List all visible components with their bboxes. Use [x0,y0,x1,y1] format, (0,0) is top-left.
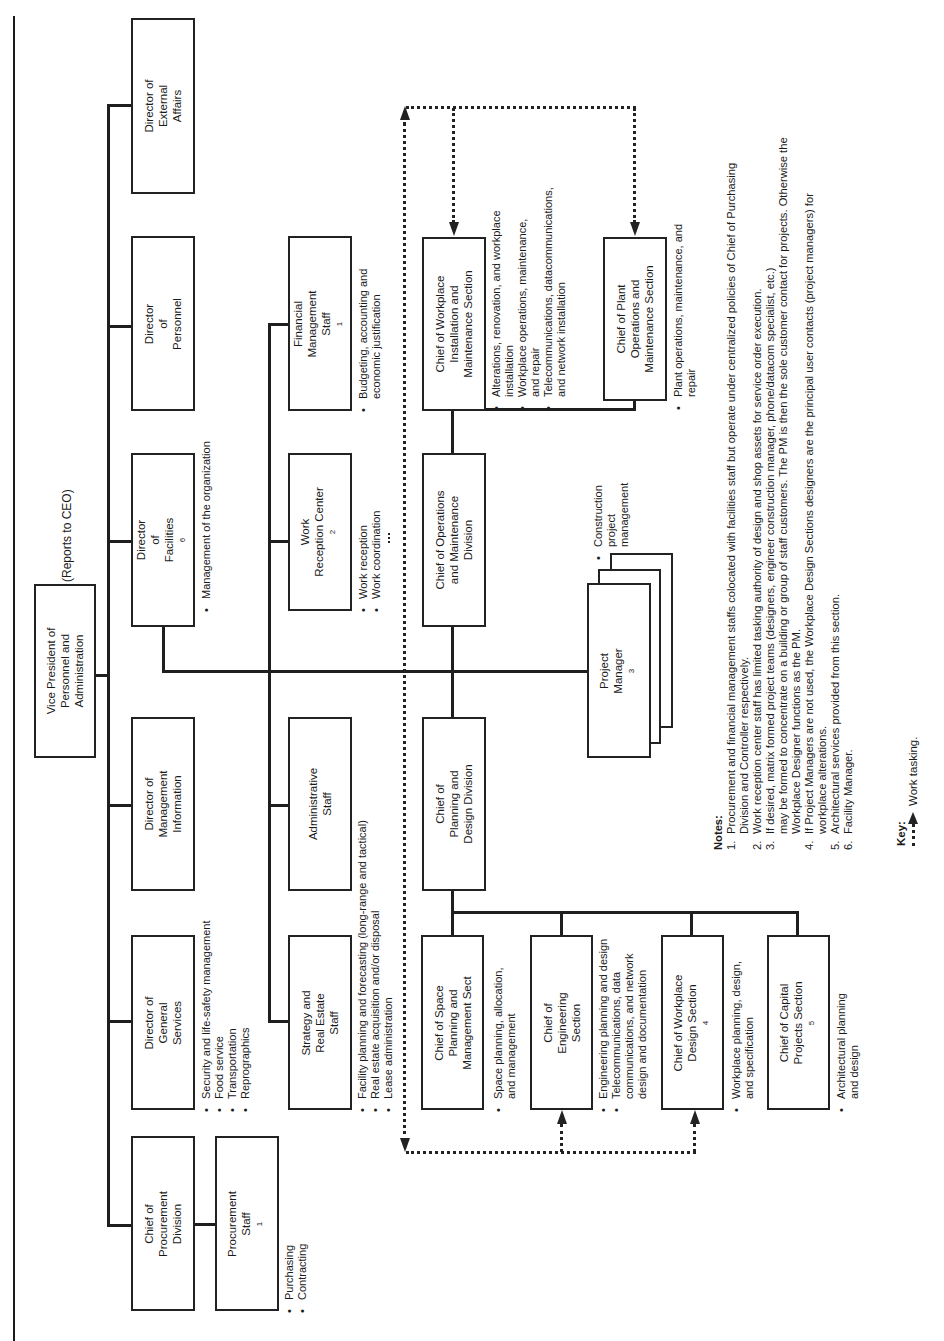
director-external-affairs-label: Director ofExternalAffairs [142,79,184,132]
notes-title: Notes: [712,137,725,850]
connector [268,1020,288,1023]
bullet-item: Food service [213,920,226,1112]
dotted-to-workplace-design [693,1124,696,1152]
work-reception-dotted-link [388,533,390,543]
bullet-item: Security and life-safety management [200,920,213,1112]
procurement-staff[interactable]: ProcurementStaff1 [215,1136,279,1311]
financial-duties: Budgeting, accounting andeconomic justif… [357,269,383,412]
connector [107,1020,131,1023]
project-manager[interactable]: ProjectManager 3 [587,583,651,758]
note-item: 4.If Project Managers are not used, the … [803,137,829,850]
key-label: Work tasking. [907,737,919,806]
vp-box[interactable]: Vice President ofPersonnel andAdministra… [34,584,96,758]
bullet-item: Work coordination [370,511,383,612]
plant-operations-duties: Plant operations, maintenance, andrepair [672,224,698,410]
arrowhead-icon [908,812,918,824]
work-reception-label: WorkReception Center2 [298,487,343,577]
bullet-item: Purchasing [283,1244,296,1313]
bullet-item: Architectural planningand design [835,993,861,1112]
director-gs-label: Director ofGeneralServices [142,996,184,1049]
director-mi-label: Director ofManagementInformation [142,770,184,837]
planning-division-label: Chief ofPlanning andDesign Division [433,764,475,843]
connector [107,104,131,107]
operations-division-label: Chief of Operationsand MaintenanceDivisi… [433,490,475,589]
top-dotted-line [406,106,636,109]
note-item: 2.Work reception center staff has limite… [751,137,764,850]
dotted-to-workplace-install [452,108,455,223]
capital-projects-duties: Architectural planningand design [835,993,861,1112]
chief-workplace-design-section[interactable]: Chief of WorkplaceDesign Section4 [661,935,724,1110]
financial-management-staff[interactable]: FinancialManagementStaff1 [288,236,352,411]
chief-operations-maintenance-division[interactable]: Chief of Operationsand MaintenanceDivisi… [422,453,486,627]
connector [268,540,288,543]
reports-to-label: (Reports to CEO) [60,489,74,582]
plant-ops-connector [633,400,636,410]
key-section: Key: Work tasking. [895,737,919,846]
chief-planning-design-division[interactable]: Chief ofPlanning andDesign Division [422,717,486,891]
director-external-affairs[interactable]: Director ofExternalAffairs [131,18,195,194]
project-manager-label: ProjectManager 3 [597,648,642,693]
dotted-arrow-icon [912,824,915,846]
notes-section: Notes: 1.Procurement and financial manag… [712,137,855,850]
bullet-item: Workplace planning, design,and specifica… [730,961,756,1112]
facilities-duties: Management of the organization [200,441,213,612]
staff-spine [268,323,271,1023]
procurement-connector [195,1223,215,1226]
key-entry: Work tasking. [907,737,919,846]
note-item: 3.If desired, matrix formed project team… [764,137,803,850]
work-reception-duties: Work reception Work coordination [357,511,383,612]
bullet-item: Real estate acquisition and/or disposal [369,820,382,1112]
bullet-item: Workplace operations, maintenance,and re… [516,187,542,410]
arrow-down-icon [449,222,459,236]
dotted-to-plant-ops [633,108,636,223]
connector [268,804,288,807]
workplace-design-duties: Workplace planning, design,and specifica… [730,961,756,1112]
dotted-to-engineering [560,1124,563,1152]
note-item: 6.Facility Manager. [842,137,855,850]
chief-engineering-section[interactable]: Chief ofEngineeringSection [530,935,593,1110]
bullet-item: Telecommunications, datacommunications,a… [542,187,568,410]
director-spine-ext [107,1000,110,1227]
connector [690,911,693,935]
procurement-staff-label: ProcurementStaff1 [225,1191,270,1257]
director-personnel[interactable]: DirectorofPersonnel [131,236,195,411]
chief-capital-projects-section[interactable]: Chief of CapitalProjects Section5 [767,935,830,1110]
workplace-installation-duties: Alterations, renovation, and workplacein… [490,187,568,410]
notes-list: 1.Procurement and financial management s… [725,137,855,850]
arrow-up-icon [690,1110,700,1124]
planning-sections-horizontal [451,911,799,914]
arrow-up-icon [557,1110,567,1124]
bullet-item: Constructionprojectmanagement [592,483,631,560]
arrow-down-icon [630,222,640,236]
bullet-item: Budgeting, accounting andeconomic justif… [357,269,383,412]
connector [107,540,131,543]
workplace-design-label: Chief of WorkplaceDesign Section4 [670,974,715,1071]
strategy-real-estate-staff[interactable]: Strategy andReal EstateStaff [288,935,352,1110]
chief-workplace-installation-section[interactable]: Chief of WorkplaceInstallation andMainte… [422,237,486,411]
bullet-item: Contracting [296,1244,309,1313]
work-reception-center[interactable]: WorkReception Center2 [288,453,352,611]
bullet-item: Engineering planning and design [597,939,610,1112]
director-general-services[interactable]: Director ofGeneralServices [131,935,195,1110]
facilities-horizontal-line [162,670,588,673]
bullet-item: Transportation [226,920,239,1112]
administrative-staff[interactable]: AdministrativeStaff [288,717,352,891]
space-planning-label: Chief of SpacePlanning andManagement Sec… [432,976,474,1069]
connector [560,911,563,935]
bullet-item: Space planning, allocation,and managemen… [492,968,518,1112]
director-facilities[interactable]: DirectorofFacilities6 [131,453,195,627]
bottom-dotted-line [406,1151,696,1154]
chief-plant-operations-section[interactable]: Chief of PlantOperations andMaintenance … [603,237,667,401]
procurement-duties: Purchasing Contracting [283,1244,309,1313]
work-tasking-dotted-line [403,122,406,1142]
director-spine [107,104,110,1004]
chief-procurement-division[interactable]: Chief ofProcurementDivision [131,1136,195,1311]
bullet-item: Reprographics [239,920,252,1112]
director-management-information[interactable]: Director ofManagementInformation [131,717,195,891]
strategy-duties: Facility planning and forecasting (long-… [356,820,395,1112]
connector [268,323,288,326]
bullet-item: Telecommunications, datacommunications, … [610,939,649,1112]
plant-operations-label: Chief of PlantOperations andMaintenance … [614,265,656,372]
connector [107,1224,131,1227]
chief-space-planning-section[interactable]: Chief of SpacePlanning andManagement Sec… [421,935,484,1110]
